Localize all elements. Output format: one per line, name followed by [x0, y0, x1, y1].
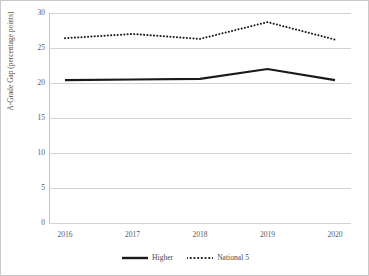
y-axis-title: A-Grade Gap (percentage points) — [7, 0, 15, 123]
x-tick-label: 2018 — [193, 231, 208, 239]
series-line-higher — [65, 69, 335, 80]
y-tick-label: 30 — [25, 9, 45, 17]
legend-item[interactable]: National 5 — [187, 253, 249, 262]
x-tick-label: 2019 — [260, 231, 275, 239]
gridline-0 — [49, 223, 351, 224]
series-lines — [49, 13, 351, 223]
plot-area — [49, 13, 351, 223]
legend-item[interactable]: Higher — [122, 253, 173, 262]
series-line-national-5 — [65, 22, 335, 39]
legend-swatch-dotted — [187, 255, 213, 261]
legend-swatch-solid — [122, 255, 148, 261]
chart-figure: A-Grade Gap (percentage points) 05101520… — [0, 0, 369, 276]
y-tick-label: 20 — [25, 79, 45, 87]
y-tick-label: 25 — [25, 44, 45, 52]
y-axis-tick-labels: 051015202530 — [21, 13, 45, 223]
y-tick-label: 15 — [25, 114, 45, 122]
x-tick-label: 2016 — [58, 231, 73, 239]
y-tick-label: 10 — [25, 149, 45, 157]
y-tick-label: 0 — [25, 219, 45, 227]
x-axis-tick-labels: 20162017201820192020 — [49, 231, 351, 243]
legend-label: Higher — [152, 253, 173, 262]
legend-label: National 5 — [217, 253, 249, 262]
y-tick-label: 5 — [25, 184, 45, 192]
x-tick-label: 2017 — [125, 231, 140, 239]
chart-legend: HigherNational 5 — [1, 253, 369, 262]
x-tick-label: 2020 — [328, 231, 343, 239]
